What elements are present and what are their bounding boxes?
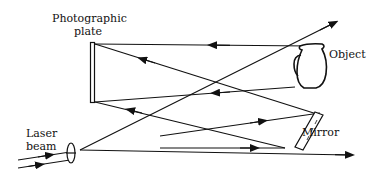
object-label: Object [329, 48, 366, 61]
object-to-plate-ray-top [95, 44, 310, 46]
laser-label-line2: beam [26, 140, 57, 153]
plate-to-mirror-ray [95, 44, 320, 115]
photographic-plate-label: Photographic plate [52, 12, 124, 38]
photographic-plate [91, 43, 95, 103]
laser-beam-label: Laser beam [26, 127, 57, 153]
mirror-label: Mirror [302, 126, 339, 139]
plate-label-line2: plate [52, 25, 124, 38]
beam-to-mirror [160, 113, 320, 136]
plate-to-mirror-ray-lower [95, 102, 285, 148]
plate-label-line1: Photographic [52, 12, 124, 25]
object-to-plate-ray-bottom [95, 87, 295, 102]
laser-beam-lower [18, 160, 70, 168]
object-pitcher-icon [294, 44, 327, 88]
laser-label-line1: Laser [26, 127, 57, 140]
object-illumination-beam [80, 22, 336, 150]
transmitted-beam [80, 150, 350, 155]
